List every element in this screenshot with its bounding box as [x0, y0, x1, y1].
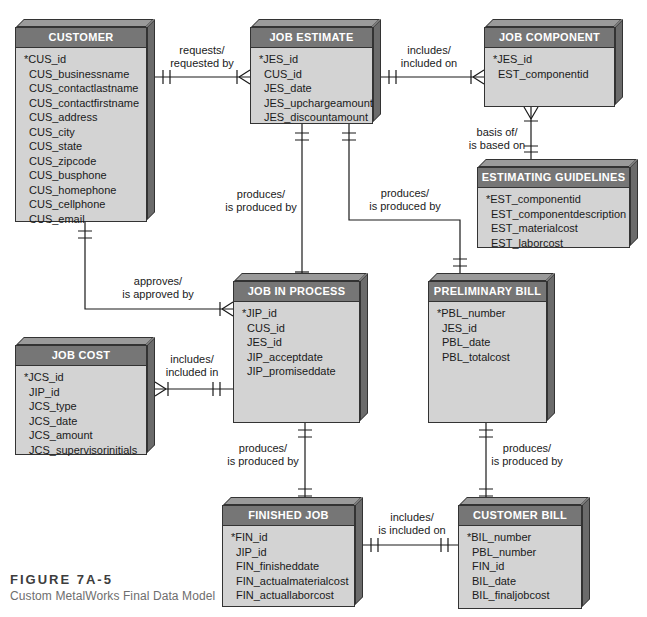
entity-attribute: JCS_amount	[24, 428, 143, 443]
entity-attribute: FIN_actualmaterialcost	[231, 574, 351, 589]
entity-attribute: CUS_homephone	[24, 183, 143, 198]
entity-attribute: EST_componentdescription	[486, 207, 626, 222]
entity-3d-top-face	[429, 273, 554, 281]
entity-title: JOB COST	[16, 346, 146, 366]
entity-title: JOB IN PROCESS	[234, 282, 359, 302]
entity-3d-top-face	[223, 497, 362, 505]
entity-attribute: EST_materialcost	[486, 221, 626, 236]
entity-title: FINISHED JOB	[223, 506, 354, 526]
entity-3d-top-face	[16, 337, 154, 345]
entity-attributes: *FIN_idJIP_idFIN_finisheddateFIN_actualm…	[223, 526, 354, 603]
one-and-only-one-icon	[163, 70, 170, 84]
entity-3d-right-face	[147, 19, 155, 220]
entity-attribute: BIL_date	[467, 574, 578, 589]
entity-title: CUSTOMER BILL	[459, 506, 581, 526]
entity-3d-right-face	[547, 273, 555, 421]
relationship-label-preliminary-bill-produces-customer-bill: produces/ is produced by	[491, 442, 563, 468]
crowfoot-icon	[155, 382, 168, 396]
relationship-label-job-estimate-includes-job-component: includes/ included on	[401, 44, 457, 70]
entity-job-in-process: JOB IN PROCESS *JIP_idCUS_idJES_idJIP_ac…	[233, 281, 360, 423]
relationship-label-guidelines-basis-of-component: basis of/ is based on	[469, 126, 525, 152]
entity-title: PRELIMINARY BILL	[429, 282, 546, 302]
entity-customer-bill: CUSTOMER BILL *BIL_numberPBL_numberFIN_i…	[458, 505, 582, 609]
entity-attribute: CUS_businessname	[24, 67, 143, 82]
entity-3d-top-face	[16, 19, 154, 27]
entity-3d-right-face	[582, 497, 590, 607]
entity-title: JOB ESTIMATE	[251, 28, 372, 48]
entity-attribute: CUS_address	[24, 110, 143, 125]
entity-attribute: JES_id	[437, 321, 543, 336]
entity-3d-right-face	[615, 19, 623, 105]
entity-3d-top-face	[485, 19, 622, 27]
entity-attribute: PBL_totalcost	[437, 350, 543, 365]
entity-attribute: EST_componentid	[493, 67, 611, 82]
entity-attribute: *BIL_number	[467, 530, 578, 545]
one-and-only-one-icon	[479, 430, 493, 437]
entity-attribute: JCS_supervisorinitials	[24, 443, 143, 458]
crowfoot-icon	[220, 302, 233, 316]
entity-attribute: JES_id	[242, 335, 356, 350]
entity-attribute: JES_upchargeamount	[259, 96, 369, 111]
entity-attribute: JES_discountamount	[259, 110, 369, 125]
entity-customer: CUSTOMER *CUS_idCUS_businessnameCUS_cont…	[15, 27, 147, 222]
entity-preliminary-bill: PRELIMINARY BILL *PBL_numberJES_idPBL_da…	[428, 281, 547, 423]
entity-job-cost: JOB COST *JCS_idJIP_idJCS_typeJCS_dateJC…	[15, 345, 147, 455]
entity-title: CUSTOMER	[16, 28, 146, 48]
entity-attributes: *PBL_numberJES_idPBL_datePBL_totalcost	[429, 302, 546, 364]
entity-attribute: JIP_id	[24, 385, 143, 400]
one-and-only-one-icon	[389, 70, 396, 84]
relationship-label-job-in-process-includes-job-cost: includes/ included in	[166, 353, 219, 379]
entity-3d-right-face	[360, 273, 368, 421]
entity-attribute: *JES_id	[493, 52, 611, 67]
entity-attributes: *JES_idEST_componentid	[485, 48, 614, 81]
entity-attribute: PBL_date	[437, 335, 543, 350]
entity-attribute: FIN_actuallaborcost	[231, 588, 351, 603]
entity-attribute: FIN_id	[467, 559, 578, 574]
entity-attribute: *EST_componentid	[486, 192, 626, 207]
one-and-only-one-icon	[298, 430, 312, 437]
entity-job-component: JOB COMPONENT *JES_idEST_componentid	[484, 27, 615, 107]
entity-attribute: JCS_date	[24, 414, 143, 429]
entity-attribute: *PBL_number	[437, 306, 543, 321]
entity-attribute: CUS_contactfirstname	[24, 96, 143, 111]
entity-attribute: PBL_number	[467, 545, 578, 560]
entity-estimating-guidelines: ESTIMATING GUIDELINES *EST_componentidES…	[477, 167, 630, 248]
one-and-only-one-icon	[453, 259, 467, 266]
entity-attribute: *JIP_id	[242, 306, 356, 321]
entity-attribute: FIN_finisheddate	[231, 559, 351, 574]
entity-finished-job: FINISHED JOB *FIN_idJIP_idFIN_finishedda…	[222, 505, 355, 607]
entity-attribute: CUS_state	[24, 139, 143, 154]
entity-attribute: JIP_acceptdate	[242, 350, 356, 365]
entity-3d-right-face	[147, 337, 155, 453]
entity-3d-top-face	[459, 497, 589, 505]
entity-attributes: *BIL_numberPBL_numberFIN_idBIL_dateBIL_f…	[459, 526, 581, 603]
relationship-label-finished-job-included-on-customer-bill: includes/ is included on	[378, 511, 445, 537]
entity-3d-top-face	[478, 159, 637, 167]
figure-number: FIGURE 7A-5	[10, 572, 215, 587]
one-and-only-one-icon	[479, 489, 493, 496]
entity-attribute: JES_date	[259, 81, 369, 96]
entity-attribute: *FIN_id	[231, 530, 351, 545]
entity-title: JOB COMPONENT	[485, 28, 614, 48]
entity-attribute: BIL_finaljobcost	[467, 588, 578, 603]
entity-attribute: JIP_promiseddate	[242, 364, 356, 379]
entity-3d-right-face	[630, 159, 638, 246]
crowfoot-icon	[237, 70, 250, 84]
one-and-only-one-icon	[524, 146, 538, 152]
entity-attribute: *JCS_id	[24, 370, 143, 385]
entity-attribute: EST_laborcost	[486, 236, 626, 251]
relationship-label-job-estimate-produces-job-in-process: produces/ is produced by	[225, 188, 297, 214]
entity-attribute: JCS_type	[24, 399, 143, 414]
entity-attribute: CUS_busphone	[24, 168, 143, 183]
entity-attribute: CUS_contactlastname	[24, 81, 143, 96]
one-and-only-one-icon	[78, 231, 92, 238]
relationship-label-customer-approves-job-in-process: approves/ is approved by	[122, 275, 194, 301]
crowfoot-icon	[524, 107, 538, 121]
figure-title: Custom MetalWorks Final Data Model	[10, 589, 215, 603]
entity-attributes: *JIP_idCUS_idJES_idJIP_acceptdateJIP_pro…	[234, 302, 359, 379]
entity-attribute: CUS_city	[24, 125, 143, 140]
relationship-label-job-in-process-produces-finished-job: produces/ is produced by	[227, 442, 299, 468]
crowfoot-icon	[471, 70, 484, 84]
entity-attribute: CUS_id	[242, 321, 356, 336]
entity-attributes: *JCS_idJIP_idJCS_typeJCS_dateJCS_amountJ…	[16, 366, 146, 457]
